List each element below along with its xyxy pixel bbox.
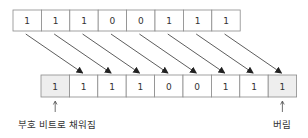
original-bit-cell: 0 [127, 10, 155, 31]
svg-text:1: 1 [223, 82, 229, 92]
shift-arrow [139, 34, 196, 73]
svg-text:1: 1 [81, 16, 87, 26]
svg-text:1: 1 [24, 16, 30, 26]
shift-arrow [196, 34, 253, 73]
shifted-bit-cell: 1 [240, 75, 268, 97]
shift-arrow [168, 34, 225, 73]
svg-text:1: 1 [52, 82, 58, 92]
shifted-bit-cell: 1 [211, 75, 239, 97]
shifted-bit-cell: 0 [183, 75, 211, 97]
original-bit-cell: 1 [13, 10, 41, 31]
svg-text:1: 1 [81, 82, 87, 92]
shifted-bit-cell: 0 [155, 75, 183, 97]
original-bit-cell: 1 [212, 10, 240, 31]
shifted-bit-cell: 1 [268, 75, 296, 97]
svg-text:1: 1 [195, 16, 201, 26]
sign-bit-fill-label: 부호 비트로 채워짐 [18, 117, 96, 131]
shift-arrow [225, 34, 282, 73]
discard-label: 버림 [273, 117, 291, 131]
original-bit-cell: 1 [41, 10, 69, 31]
svg-text:0: 0 [166, 82, 172, 92]
shift-arrow [83, 34, 140, 73]
svg-text:1: 1 [223, 16, 229, 26]
svg-text:0: 0 [110, 16, 116, 26]
svg-text:1: 1 [280, 82, 286, 92]
shift-arrow [54, 34, 111, 73]
svg-text:0: 0 [194, 82, 200, 92]
svg-text:1: 1 [53, 16, 59, 26]
label-pointer-arrows [53, 101, 284, 112]
svg-text:1: 1 [138, 82, 144, 92]
shift-arrows [26, 34, 282, 73]
shifted-bit-cell: 1 [41, 75, 69, 97]
shift-arrow [26, 34, 83, 73]
original-bit-cell: 0 [98, 10, 126, 31]
svg-text:1: 1 [166, 16, 172, 26]
shifted-bits-row: 111100111 [41, 75, 297, 97]
svg-text:1: 1 [109, 82, 115, 92]
original-bit-cell: 1 [183, 10, 211, 31]
shifted-bit-cell: 1 [126, 75, 154, 97]
shift-arrow [111, 34, 168, 73]
svg-text:1: 1 [251, 82, 257, 92]
svg-text:0: 0 [138, 16, 144, 26]
shifted-bit-cell: 1 [69, 75, 97, 97]
shifted-bit-cell: 1 [98, 75, 126, 97]
original-bit-cell: 1 [155, 10, 183, 31]
original-bit-cell: 1 [70, 10, 98, 31]
original-bits-row: 11100111 [13, 10, 240, 31]
